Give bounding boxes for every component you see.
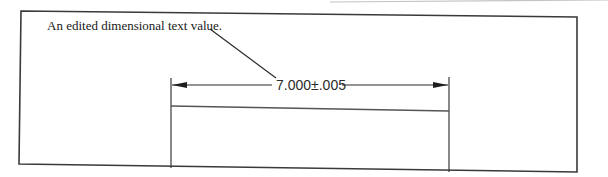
arrowhead-left-icon	[172, 82, 187, 88]
leader-line	[210, 29, 276, 78]
part-top-edge	[171, 106, 449, 111]
scan-edge-line	[330, 0, 608, 2]
caption-text: An edited dimensional text value.	[47, 18, 222, 33]
dimension-drawing-figure: An edited dimensional text value. 7.000±…	[0, 0, 608, 177]
arrowhead-right-icon	[433, 82, 448, 88]
dimension-value-text: 7.000±.005	[276, 77, 346, 93]
